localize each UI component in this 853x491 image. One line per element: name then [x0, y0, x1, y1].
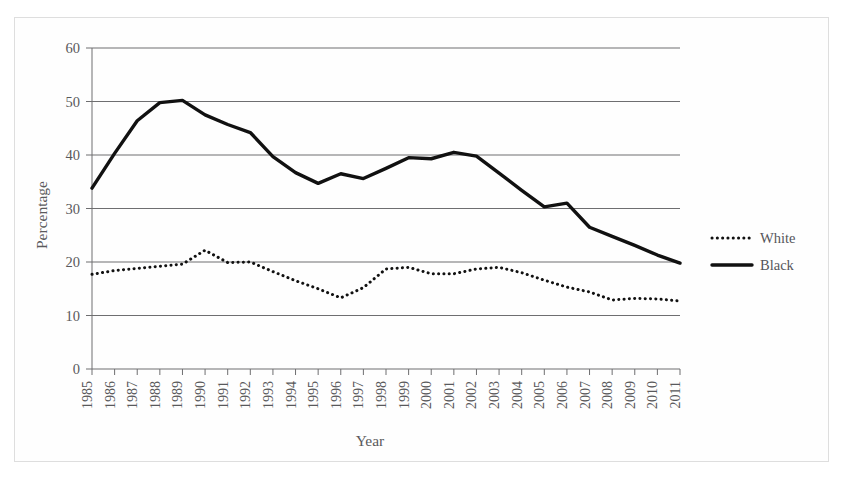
y-tick-label: 10: [66, 308, 81, 324]
x-tick-label: 1987: [125, 381, 140, 409]
x-axis-ticks: 1985198619871988198919901991199219931994…: [80, 369, 683, 409]
x-tick-label: 1991: [216, 381, 231, 409]
y-tick-label: 30: [66, 201, 81, 217]
x-tick-label: 2010: [645, 381, 660, 409]
x-tick-label: 2004: [510, 381, 525, 409]
x-tick-label: 2000: [419, 381, 434, 409]
y-tick-label: 0: [73, 361, 80, 377]
x-tick-label: 1989: [170, 381, 185, 409]
x-tick-label: 1996: [329, 381, 344, 409]
x-tick-label: 2001: [442, 381, 457, 409]
x-tick-label: 2011: [668, 381, 683, 408]
x-tick-label: 2006: [555, 381, 570, 409]
series-line-white: [92, 250, 680, 301]
x-tick-label: 2009: [623, 381, 638, 409]
line-chart: 0102030405060 19851986198719881989199019…: [0, 0, 853, 491]
x-tick-label: 1992: [238, 381, 253, 409]
x-tick-label: 1988: [148, 381, 163, 409]
chart-figure: 0102030405060 19851986198719881989199019…: [0, 0, 853, 491]
y-axis-ticks: 0102030405060: [66, 40, 93, 377]
x-tick-label: 1997: [351, 381, 366, 409]
x-tick-label: 1986: [103, 381, 118, 409]
x-tick-label: 1994: [284, 381, 299, 409]
x-tick-label: 2008: [600, 381, 615, 409]
legend-label-black: Black: [760, 257, 795, 273]
y-tick-label: 60: [66, 40, 81, 56]
series-line-black: [92, 100, 680, 263]
y-tick-label: 20: [66, 254, 81, 270]
x-tick-label: 2007: [578, 381, 593, 409]
x-tick-label: 2003: [487, 381, 502, 409]
x-tick-label: 2005: [532, 381, 547, 409]
x-tick-label: 1995: [306, 381, 321, 409]
x-axis-title: Year: [356, 432, 385, 449]
chart-legend: WhiteBlack: [712, 230, 795, 273]
legend-label-white: White: [760, 230, 795, 246]
x-tick-label: 1999: [397, 381, 412, 409]
gridlines: [92, 48, 680, 316]
y-tick-label: 40: [66, 147, 81, 163]
y-axis-title: Percentage: [33, 181, 50, 249]
x-tick-label: 1998: [374, 381, 389, 409]
x-tick-label: 2002: [464, 381, 479, 409]
x-tick-label: 1985: [80, 381, 95, 409]
x-tick-label: 1990: [193, 381, 208, 409]
y-tick-label: 50: [66, 94, 81, 110]
x-tick-label: 1993: [261, 381, 276, 409]
data-series-layer: [92, 100, 680, 301]
